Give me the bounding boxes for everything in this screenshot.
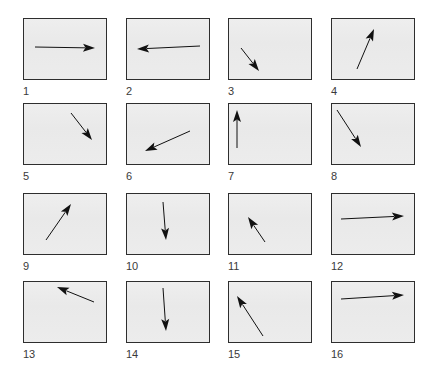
arrow-panel (126, 103, 210, 165)
panel-number-label: 1 (23, 85, 29, 97)
arrow-panel (23, 193, 107, 255)
panel-number-label: 15 (228, 348, 240, 360)
panel-number-label: 2 (126, 85, 132, 97)
arrow-panel (331, 103, 415, 165)
panel-number-label: 16 (331, 348, 343, 360)
arrow-panel (23, 281, 107, 343)
panel-number-label: 7 (228, 170, 234, 182)
panel-number-label: 5 (23, 170, 29, 182)
panel-number-label: 8 (331, 170, 337, 182)
arrow-panel (331, 18, 415, 80)
panel-number-label: 11 (228, 260, 239, 272)
arrow-panel (126, 281, 210, 343)
panel-number-label: 6 (126, 170, 132, 182)
arrow-panel (23, 18, 107, 80)
panel-number-label: 14 (126, 348, 138, 360)
arrow-panel (228, 18, 312, 80)
panel-number-label: 3 (228, 85, 234, 97)
arrow-panel (126, 18, 210, 80)
panel-number-label: 9 (23, 260, 29, 272)
panel-number-label: 12 (331, 260, 343, 272)
arrow-panel (331, 193, 415, 255)
arrow-panel (331, 281, 415, 343)
arrow-panel (228, 281, 312, 343)
arrow-panel (126, 193, 210, 255)
arrow-panel (23, 103, 107, 165)
arrow-panel (228, 103, 312, 165)
panel-number-label: 4 (331, 85, 337, 97)
panel-number-label: 10 (126, 260, 138, 272)
arrow-panel (228, 193, 312, 255)
panel-number-label: 13 (23, 348, 35, 360)
